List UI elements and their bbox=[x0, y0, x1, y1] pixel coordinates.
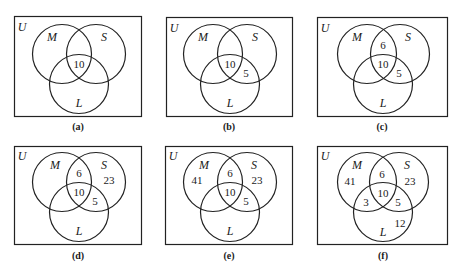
region-m-l: 3 bbox=[363, 197, 369, 208]
universe-label: U bbox=[18, 150, 27, 162]
region-m-s: 6 bbox=[380, 40, 386, 51]
circle-m bbox=[184, 25, 243, 84]
region-m-only: 41 bbox=[192, 175, 203, 186]
set-label-m: M bbox=[352, 31, 362, 43]
universe-label: U bbox=[321, 150, 330, 162]
caption-a: (a) bbox=[72, 121, 84, 132]
circle-m bbox=[338, 25, 397, 84]
set-label-l: L bbox=[76, 225, 83, 237]
caption-b: (b) bbox=[223, 121, 235, 132]
set-label-m: M bbox=[199, 159, 209, 171]
set-label-l: L bbox=[227, 225, 234, 237]
venn-panel-c: U M S L 6 10 5 bbox=[317, 17, 448, 117]
set-label-m: M bbox=[50, 159, 60, 171]
venn-panel-b: U M S L 10 5 bbox=[166, 17, 293, 117]
set-label-s: S bbox=[251, 159, 257, 171]
circle-s bbox=[67, 25, 126, 84]
region-center: 10 bbox=[74, 187, 85, 198]
universe-label: U bbox=[170, 22, 179, 34]
venn-panel-f: U M S L 41 6 23 10 3 5 12 bbox=[317, 146, 448, 245]
universe-label: U bbox=[169, 150, 178, 162]
set-label-l: L bbox=[380, 226, 387, 238]
universe-label: U bbox=[18, 21, 27, 33]
set-label-m: M bbox=[198, 31, 208, 43]
region-s-l: 5 bbox=[243, 68, 249, 79]
region-m-s: 6 bbox=[227, 168, 233, 179]
region-center: 10 bbox=[378, 59, 389, 70]
region-m-only: 41 bbox=[345, 176, 356, 187]
set-label-s: S bbox=[404, 159, 410, 171]
region-center: 10 bbox=[225, 59, 236, 70]
set-label-m: M bbox=[47, 31, 57, 43]
venn-panel-d: U M S L 6 23 10 5 bbox=[14, 146, 142, 245]
region-m-s: 6 bbox=[379, 169, 385, 180]
set-label-l: L bbox=[380, 97, 387, 109]
region-s-l: 5 bbox=[396, 68, 402, 79]
set-label-s: S bbox=[101, 159, 107, 171]
region-l-only: 12 bbox=[395, 218, 406, 229]
set-label-l: L bbox=[227, 97, 234, 109]
region-center: 10 bbox=[378, 188, 389, 199]
venn-panel-a: U M S L 10 bbox=[14, 16, 142, 117]
region-s-only: 23 bbox=[405, 176, 416, 187]
region-s-l: 5 bbox=[92, 196, 98, 207]
set-label-s: S bbox=[252, 31, 258, 43]
region-s-l: 5 bbox=[395, 197, 401, 208]
region-center: 10 bbox=[74, 59, 85, 70]
region-s-only: 23 bbox=[252, 175, 263, 186]
region-s-only: 23 bbox=[104, 175, 115, 186]
universe-label: U bbox=[321, 22, 330, 34]
caption-c: (c) bbox=[376, 121, 387, 132]
caption-e: (e) bbox=[223, 250, 234, 261]
region-m-s: 6 bbox=[76, 168, 82, 179]
set-label-l: L bbox=[76, 97, 83, 109]
circle-m bbox=[33, 25, 92, 84]
set-label-m: M bbox=[352, 159, 362, 171]
region-s-l: 5 bbox=[243, 196, 249, 207]
set-label-s: S bbox=[405, 31, 411, 43]
circle-m bbox=[33, 153, 92, 212]
venn-panel-e: U M S L 41 6 23 10 5 bbox=[165, 146, 293, 245]
set-label-s: S bbox=[101, 31, 107, 43]
caption-d: (d) bbox=[72, 250, 84, 261]
region-center: 10 bbox=[225, 187, 236, 198]
caption-f: (f) bbox=[378, 250, 388, 261]
